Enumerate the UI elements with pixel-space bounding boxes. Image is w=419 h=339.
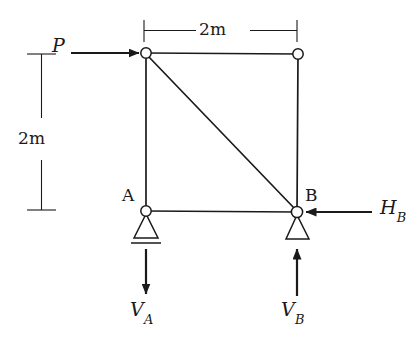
force-label-HB-subscript: B (397, 210, 406, 225)
member-diagonal (148, 56, 295, 209)
joint-B (291, 206, 302, 217)
support-B-symbol (286, 215, 309, 239)
force-label-VB-symbol: V (281, 298, 295, 320)
force-label-HB-symbol: H (380, 196, 397, 218)
top-dimension-label: 2m (199, 21, 226, 38)
support-A-symbol (131, 214, 161, 243)
joint-label-B: B (305, 187, 318, 204)
joint-top-left (141, 48, 151, 58)
joint-label-A: A (122, 187, 134, 204)
left-dimension-label: 2m (18, 130, 45, 147)
force-label-P-symbol: P (52, 34, 65, 56)
member-bottom-chord (146, 211, 297, 212)
force-arrows (71, 53, 372, 296)
force-label-VA-symbol: V (130, 298, 144, 320)
joint-A (141, 206, 151, 216)
member-top-chord (146, 53, 298, 54)
force-label-HB: HB (380, 198, 406, 222)
frame-members (146, 53, 298, 212)
force-label-VA: VA (130, 300, 153, 324)
force-label-P: P (52, 36, 65, 55)
joint-top-right (293, 49, 303, 59)
member-right-column (297, 54, 298, 212)
frame-diagram-figure: 2m 2m A B P HB VA VB (0, 0, 419, 339)
force-label-VA-subscript: A (144, 312, 153, 327)
force-label-VB: VB (281, 300, 304, 324)
force-label-VB-subscript: B (295, 312, 304, 327)
